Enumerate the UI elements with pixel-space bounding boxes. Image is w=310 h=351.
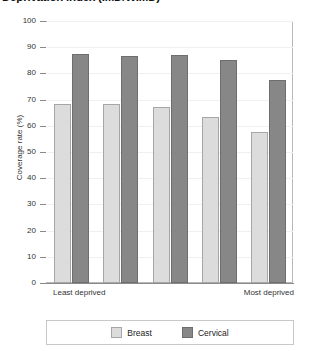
y-axis-tick-label: 10 xyxy=(8,253,36,261)
bar-breast-2 xyxy=(103,104,120,283)
bar-breast-1 xyxy=(54,104,71,283)
y-axis-tick-label: 0 xyxy=(8,279,36,287)
legend-label: Cervical xyxy=(198,328,229,338)
y-axis-tick xyxy=(40,204,46,205)
y-axis-tick xyxy=(40,100,46,101)
legend-item-breast[interactable]: Breast xyxy=(111,327,152,338)
y-axis-title: Coverage rate (%) xyxy=(15,93,24,203)
chart-title: Deprivation index (IMD/WIMD) xyxy=(2,0,160,3)
y-axis-tick-label: 100 xyxy=(8,17,36,25)
bar-cervical-1 xyxy=(72,54,89,283)
y-axis-tick-label: 90 xyxy=(8,43,36,51)
y-axis-tick xyxy=(40,283,46,284)
chart-legend: BreastCervical xyxy=(46,320,294,345)
bar-breast-5 xyxy=(251,132,268,283)
gridline xyxy=(47,21,293,22)
y-axis-tick-label: 20 xyxy=(8,227,36,235)
y-axis-tick xyxy=(40,231,46,232)
legend-swatch-icon xyxy=(111,327,122,338)
bar-cervical-3 xyxy=(171,55,188,283)
y-axis-tick xyxy=(40,21,46,22)
legend-label: Breast xyxy=(127,328,152,338)
y-axis-tick xyxy=(40,126,46,127)
bar-breast-3 xyxy=(153,107,170,283)
y-axis-tick xyxy=(40,47,46,48)
x-axis-line xyxy=(46,283,294,284)
x-axis-label-least-deprived: Least deprived xyxy=(53,288,105,297)
bar-cervical-5 xyxy=(269,80,286,283)
bar-cervical-4 xyxy=(220,60,237,283)
bar-cervical-2 xyxy=(121,56,138,283)
y-axis-tick xyxy=(40,178,46,179)
bar-breast-4 xyxy=(202,117,219,283)
y-axis-tick xyxy=(40,73,46,74)
y-axis-tick xyxy=(40,152,46,153)
legend-item-cervical[interactable]: Cervical xyxy=(182,327,229,338)
gridline xyxy=(47,47,293,48)
y-axis-tick xyxy=(40,257,46,258)
x-axis-label-most-deprived: Most deprived xyxy=(244,288,294,297)
legend-swatch-icon xyxy=(182,327,193,338)
y-axis-tick-label: 80 xyxy=(8,69,36,77)
